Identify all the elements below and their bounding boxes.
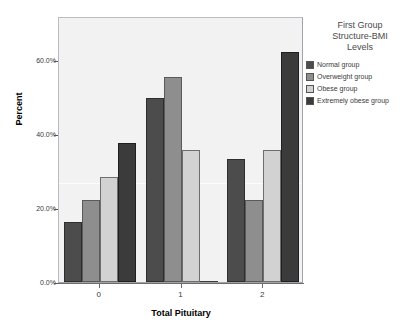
bar (281, 52, 299, 282)
bar (64, 222, 82, 282)
bar (82, 200, 100, 282)
y-tick-label: 0.0% (20, 279, 56, 286)
legend-item-label: Obese group (317, 85, 357, 93)
x-axis-title: Total Pituitary (58, 308, 304, 318)
legend-item-label: Normal group (317, 61, 359, 69)
x-tick-label: 0 (84, 290, 114, 299)
y-tick-label: 40.0% (20, 131, 56, 138)
legend-swatch-icon (306, 61, 314, 69)
bar (245, 200, 263, 282)
legend-title: First Group Structure-BMI Levels (306, 20, 414, 53)
bar (227, 159, 245, 282)
legend-swatch-icon (306, 85, 314, 93)
legend-item: Normal group (306, 59, 417, 70)
x-tick-label: 2 (247, 290, 277, 299)
bar (146, 98, 164, 282)
bar (118, 143, 136, 282)
x-tick-mark (99, 283, 100, 288)
legend: First Group Structure-BMI Levels Normal … (306, 20, 417, 107)
y-axis-ticks: 0.0%20.0%40.0%60.0% (16, 0, 56, 335)
bar (182, 150, 200, 282)
legend-swatch-icon (306, 73, 314, 81)
y-tick-label: 60.0% (20, 57, 56, 64)
legend-item: Extremely obese group (306, 95, 417, 106)
legend-item: Overweight group (306, 71, 417, 82)
y-tick-label: 20.0% (20, 205, 56, 212)
legend-items: Normal groupOverweight groupObese groupE… (306, 59, 417, 106)
legend-swatch-icon (306, 97, 314, 105)
bars-layer (59, 18, 302, 282)
bar-chart-figure: Percent 0.0%20.0%40.0%60.0% 012 Total Pi… (0, 0, 417, 335)
plot-area (58, 17, 303, 283)
bar (200, 281, 218, 282)
x-tick-mark (262, 283, 263, 288)
x-tick-label: 1 (166, 290, 196, 299)
legend-item-label: Extremely obese group (317, 97, 389, 105)
bar (263, 150, 281, 282)
bar (100, 177, 118, 282)
legend-item-label: Overweight group (317, 73, 372, 81)
legend-item: Obese group (306, 83, 417, 94)
x-tick-mark (181, 283, 182, 288)
bar (164, 77, 182, 282)
